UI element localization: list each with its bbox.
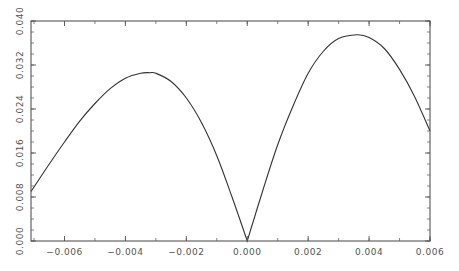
x-tick-label: 0.004 [355, 247, 383, 257]
x-tick-label: −0.002 [168, 247, 204, 257]
x-tick-label: 0.002 [294, 247, 322, 257]
y-tick-label: 0.032 [15, 51, 25, 79]
x-tick-label: −0.006 [46, 247, 82, 257]
line-chart: −0.006−0.004−0.0020.0000.0020.0040.006 0… [0, 0, 459, 271]
y-tick-label: 0.008 [15, 183, 25, 211]
y-tick-label: 0.040 [15, 7, 25, 35]
x-tick-label: 0.000 [233, 247, 261, 257]
y-axis: 0.0000.0080.0160.0240.0320.040 [15, 7, 430, 255]
x-axis: −0.006−0.004−0.0020.0000.0020.0040.006 [34, 21, 444, 257]
x-tick-label: 0.006 [416, 247, 444, 257]
y-tick-label: 0.024 [15, 95, 25, 123]
series-line-0 [31, 35, 430, 241]
y-tick-label: 0.000 [15, 227, 25, 255]
x-tick-label: −0.004 [107, 247, 143, 257]
y-tick-label: 0.016 [15, 139, 25, 167]
plot-frame [31, 21, 430, 241]
plot-area [31, 35, 430, 241]
